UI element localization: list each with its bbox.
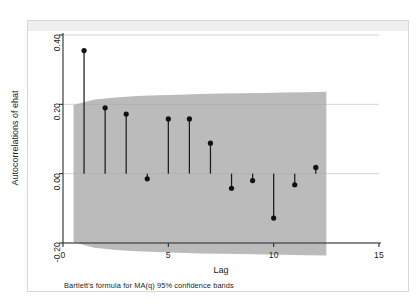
acf-marker	[271, 215, 276, 220]
x-tick-label: 15	[365, 250, 393, 260]
acf-marker	[229, 186, 234, 191]
x-tick-label: 10	[260, 250, 288, 260]
acf-marker	[187, 116, 192, 121]
confidence-band-note: Bartlett's formula for MA(q) 95% confide…	[64, 281, 234, 290]
acf-marker	[250, 178, 255, 183]
y-tick-label: 0.40	[52, 34, 62, 62]
acf-marker	[124, 111, 129, 116]
acf-marker	[166, 116, 171, 121]
plot-canvas	[0, 0, 418, 308]
x-tick-label: 5	[154, 250, 182, 260]
acf-marker	[145, 176, 150, 181]
acf-marker	[208, 141, 213, 146]
acf-marker	[292, 182, 297, 187]
y-axis-title: Autocorrelations of ehat	[10, 63, 20, 213]
acf-marker	[313, 165, 318, 170]
x-axis-title: Lag	[201, 265, 241, 275]
y-tick-label: 0.00	[52, 173, 62, 201]
y-tick-label: 0.20	[52, 103, 62, 131]
x-tick-label: 0	[49, 250, 77, 260]
acf-marker	[81, 48, 86, 53]
acf-marker	[103, 105, 108, 110]
confidence-band	[74, 92, 327, 256]
acf-chart-figure: -0.200.000.200.40 051015 Autocorrelation…	[0, 0, 418, 308]
